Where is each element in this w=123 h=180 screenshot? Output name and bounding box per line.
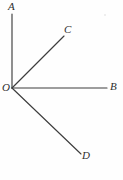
ray-od-line	[12, 88, 81, 154]
ray-oc-line	[12, 36, 64, 88]
scan-speck	[104, 14, 106, 16]
vertex-label-o: O	[2, 82, 10, 93]
ray-label-c: C	[64, 24, 71, 35]
ray-label-a: A	[8, 1, 15, 12]
ray-label-d: D	[82, 150, 90, 161]
ray-label-b: B	[110, 81, 117, 92]
geometry-figure: A C B D O	[0, 0, 123, 180]
figure-canvas	[0, 0, 123, 180]
